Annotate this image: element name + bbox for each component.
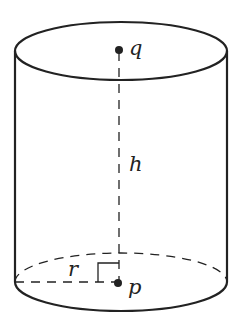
right-angle-marker <box>98 263 119 282</box>
point-q <box>115 46 123 54</box>
cylinder-diagram: q h r p <box>0 0 241 326</box>
label-q: q <box>129 38 142 59</box>
point-p <box>114 279 122 287</box>
label-r: r <box>68 259 78 280</box>
cylinder-figure <box>0 0 241 326</box>
bottom-front-arc <box>15 282 227 311</box>
label-h: h <box>129 154 143 175</box>
bottom-back-arc <box>15 253 227 282</box>
label-p: p <box>128 277 141 298</box>
